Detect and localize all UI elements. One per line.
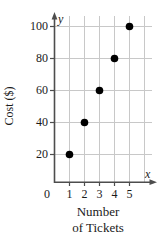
y-tick-label-100: 100 — [4, 20, 48, 32]
y-variable-label: y — [58, 13, 63, 25]
x-tick-label-0: 0 — [44, 188, 50, 200]
y-axis-line — [52, 12, 58, 183]
x-tick-label-4: 4 — [112, 188, 118, 200]
y-tick-label-80: 80 — [4, 52, 48, 64]
x-axis-title-line-1: Number — [46, 204, 150, 220]
y-axis-ticks — [50, 27, 54, 155]
data-point — [81, 119, 89, 127]
data-point — [66, 151, 74, 159]
data-point — [96, 87, 104, 95]
scatter-plot-figure: y x 100 80 60 40 20 0 1 2 3 4 5 Cost ($)… — [0, 0, 161, 243]
x-tick-label-1: 1 — [67, 188, 73, 200]
x-axis-title: Number of Tickets — [46, 204, 150, 236]
x-tick-label-2: 2 — [82, 188, 88, 200]
data-point — [111, 55, 119, 63]
x-axis-title-line-2: of Tickets — [46, 220, 150, 236]
x-variable-label: x — [145, 168, 150, 180]
x-tick-label-3: 3 — [97, 188, 103, 200]
y-tick-label-20: 20 — [4, 148, 48, 160]
y-axis-title: Cost ($) — [3, 73, 15, 139]
x-tick-label-5: 5 — [127, 188, 133, 200]
data-point — [126, 23, 134, 31]
vertical-gridlines — [70, 16, 145, 182]
